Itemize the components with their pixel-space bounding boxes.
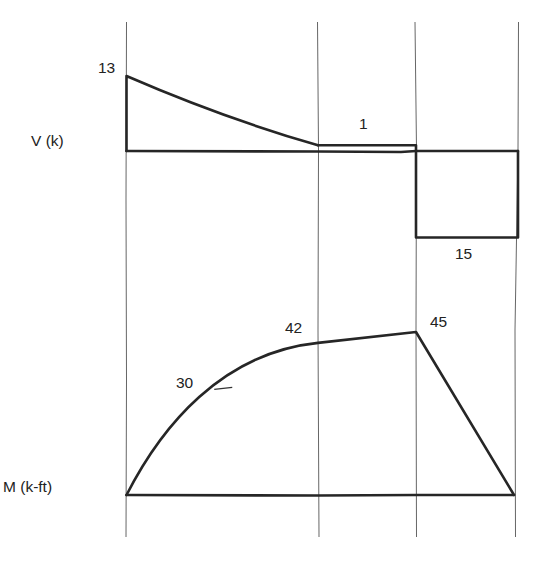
moment-label-42: 42	[285, 319, 302, 336]
moment-baseline	[127, 495, 515, 496]
shear-diagram: V (k) 13 1 15	[31, 59, 518, 262]
shear-moment-diagram: V (k) 13 1 15 M (k-ft) 30 42 45	[0, 0, 549, 566]
station-guide-2	[415, 22, 417, 537]
shear-axis-label: V (k)	[31, 132, 64, 149]
moment-curve	[127, 332, 515, 495]
moment-label-45: 45	[430, 313, 447, 330]
shear-label-13: 13	[98, 59, 115, 76]
station-guide-1	[318, 22, 320, 537]
shear-segment-2-constant	[318, 145, 416, 151]
shear-segment-1-curve	[127, 76, 319, 151]
shear-segment-3-negative	[416, 151, 518, 238]
shear-label-1: 1	[359, 115, 368, 132]
moment-diagram: M (k-ft) 30 42 45	[3, 313, 514, 496]
shear-baseline	[127, 151, 519, 152]
station-guide-3	[515, 22, 519, 537]
moment-label-30: 30	[176, 374, 194, 391]
moment-axis-label: M (k-ft)	[3, 478, 52, 495]
shear-label-15: 15	[455, 245, 472, 262]
moment-30-tick	[214, 387, 232, 389]
